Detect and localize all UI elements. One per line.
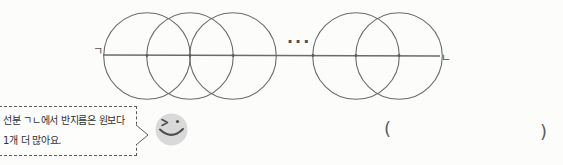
answer-open-paren: ( xyxy=(384,118,391,139)
answer-close-paren: ) xyxy=(540,121,547,142)
speech-bubble: 선분 ㄱㄴ에서 반지름은 원보다 1개 더 많아요. xyxy=(0,106,137,156)
speech-bubble-tail xyxy=(134,124,152,146)
intersection-dot xyxy=(189,54,192,57)
ellipsis-dots: ... xyxy=(287,28,311,47)
worksheet-snippet: ㄱ ㄴ ... 선분 ㄱㄴ에서 반지름은 원보다 1개 더 많아요. ( ) xyxy=(0,0,563,165)
speech-bubble-text-line2: 1개 더 많아요. xyxy=(3,131,134,151)
intersection-dot xyxy=(398,54,401,57)
label-nieun: ㄴ xyxy=(441,52,451,65)
winking-smiley-icon xyxy=(151,109,193,151)
intersection-dot xyxy=(146,54,149,57)
intersection-dot xyxy=(312,54,315,57)
label-giyeok: ㄱ xyxy=(93,45,103,58)
segment-line xyxy=(103,55,440,56)
speech-bubble-text-line1: 선분 ㄱㄴ에서 반지름은 원보다 xyxy=(3,111,134,131)
intersection-dot xyxy=(232,54,235,57)
intersection-dot xyxy=(355,54,358,57)
